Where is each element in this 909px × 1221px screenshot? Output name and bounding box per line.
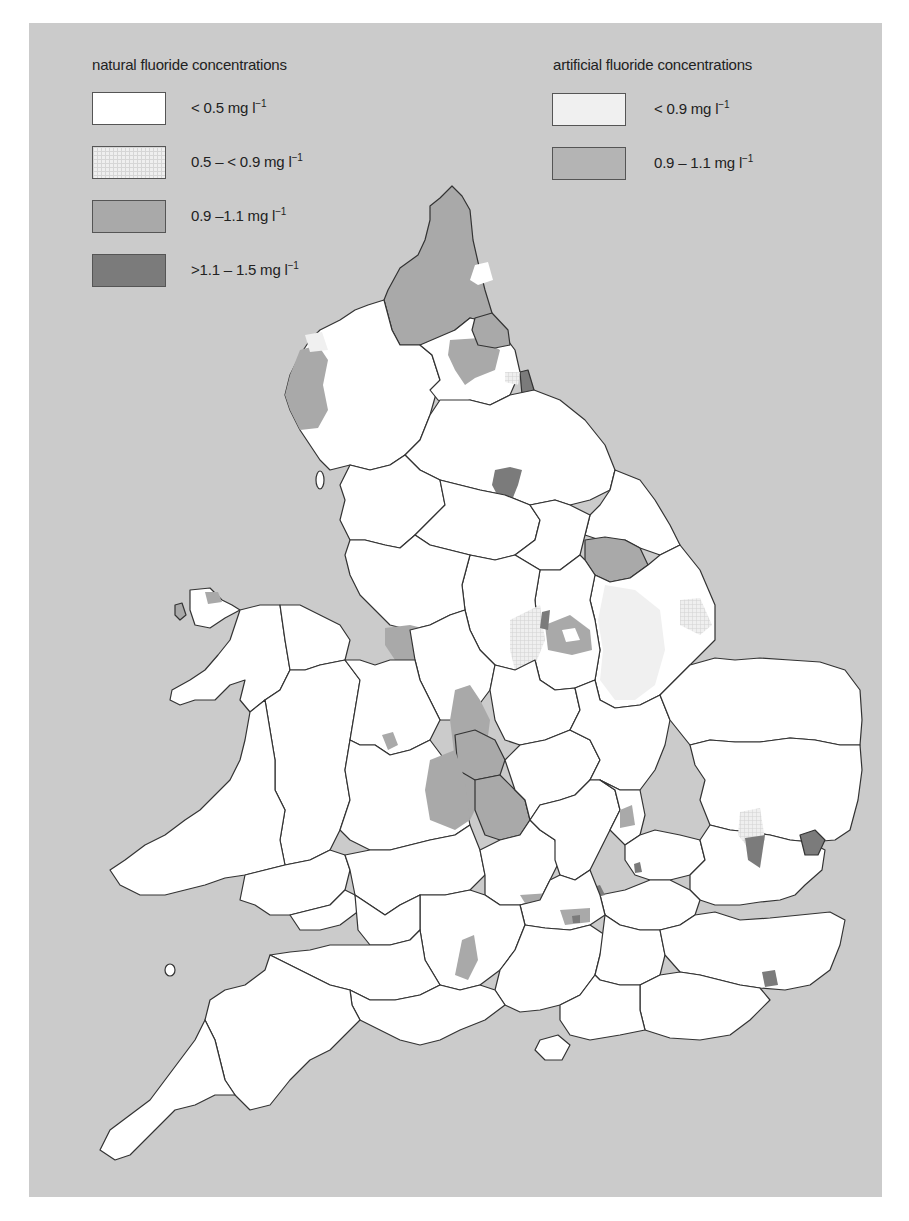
- region-dyfed: [110, 700, 285, 895]
- island-lundy: [165, 964, 175, 976]
- island-walney: [316, 471, 324, 489]
- legend-label-artificial-lt-0-9: < 0.9 mg l−1: [654, 99, 729, 117]
- legend-label-natural-0-5-0-9: 0.5 – < 0.9 mg l−1: [191, 152, 303, 170]
- legend-label-natural-0-9-1-1: 0.9 –1.1 mg l−1: [191, 206, 286, 224]
- region-clwyd: [280, 605, 350, 670]
- legend-swatch-artificial-lt-0-9: [552, 93, 626, 126]
- region-holy-island: [175, 603, 186, 620]
- region-isle-of-wight: [535, 1035, 570, 1060]
- region-norfolk: [660, 658, 862, 745]
- natural-legend-title: natural fluoride concentrations: [92, 56, 287, 73]
- legend-swatch-natural-lt-0-5: [92, 92, 166, 125]
- region-berks-dark: [572, 915, 580, 923]
- legend-swatch-artificial-0-9-1-1: [552, 147, 626, 180]
- legend-swatch-natural-0-5-0-9: [92, 146, 166, 179]
- region-anglesey-grey: [205, 592, 222, 604]
- legend-label-natural-1-1-1-5: >1.1 – 1.5 mg l−1: [191, 260, 299, 278]
- england-wales-map: [0, 0, 909, 1221]
- region-cumbria-grey: [285, 345, 328, 430]
- region-tyne-grey: [472, 313, 510, 348]
- region-cornwall: [100, 1020, 235, 1160]
- legend-swatch-natural-0-9-1-1: [92, 200, 166, 233]
- legend-swatch-natural-1-1-1-5: [92, 254, 166, 287]
- legend-label-natural-lt-0-5: < 0.5 mg l−1: [191, 98, 266, 116]
- legend-label-artificial-0-9-1-1: 0.9 – 1.1 mg l−1: [654, 153, 753, 171]
- artificial-legend-title: artificial fluoride concentrations: [553, 56, 752, 73]
